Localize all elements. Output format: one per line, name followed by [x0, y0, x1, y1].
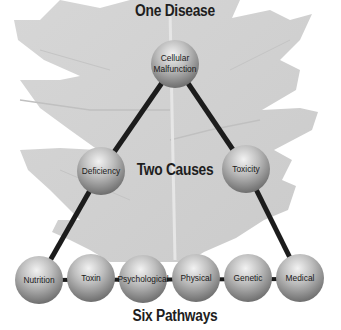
- node-label-line1: Cellular: [149, 52, 202, 63]
- heading-one-disease: One Disease: [123, 2, 226, 20]
- diagram-canvas: One Disease Two Causes Six Pathways Cell…: [0, 0, 341, 330]
- node-deficiency: Deficiency: [75, 165, 128, 176]
- heading-two-causes: Two Causes: [128, 161, 223, 179]
- node-medical: Medical: [274, 272, 327, 283]
- node-genetic: Genetic: [222, 272, 275, 283]
- node-physical: Physical: [170, 272, 223, 283]
- heading-six-pathways: Six Pathways: [123, 307, 226, 325]
- node-nutrition: Nutrition: [13, 274, 66, 285]
- node-toxin: Toxin: [65, 272, 118, 283]
- node-toxicity: Toxicity: [220, 163, 273, 174]
- node-cellular-malfunction: Cellular Malfunction: [149, 52, 202, 74]
- node-psychological: Psychological: [117, 273, 170, 284]
- node-label-line2: Malfunction: [149, 63, 202, 74]
